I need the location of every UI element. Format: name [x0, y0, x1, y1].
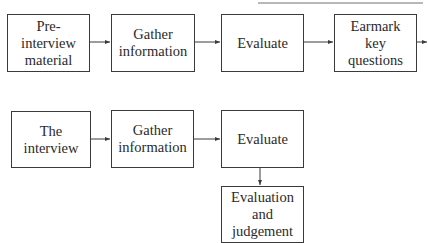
node-the-interview: The interview [11, 111, 91, 168]
node-pre-interview-material: Pre-interview material [7, 14, 90, 72]
node-earmark-key-questions: Earmark key questions [334, 14, 417, 72]
node-gather-information-1: Gather information [111, 14, 195, 72]
node-evaluate-1: Evaluate [221, 14, 304, 72]
node-evaluation-and-judgement: Evaluation and judgement [221, 186, 304, 243]
node-gather-information-2: Gather information [111, 110, 194, 168]
node-evaluate-2: Evaluate [221, 110, 304, 168]
